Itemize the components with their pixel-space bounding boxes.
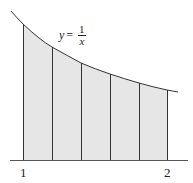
fraction: 1 x xyxy=(78,24,86,47)
eq-sign: = xyxy=(66,28,73,43)
shaded-region xyxy=(23,24,167,160)
area-under-curve-figure: y = 1 x 1 2 xyxy=(0,0,193,183)
tick-label-1: 1 xyxy=(20,166,27,179)
plot-canvas xyxy=(0,0,193,183)
denominator: x xyxy=(79,36,84,47)
equation-label: y = 1 x xyxy=(59,24,86,47)
eq-lhs: y xyxy=(59,28,64,43)
tick-label-2: 2 xyxy=(164,166,171,179)
